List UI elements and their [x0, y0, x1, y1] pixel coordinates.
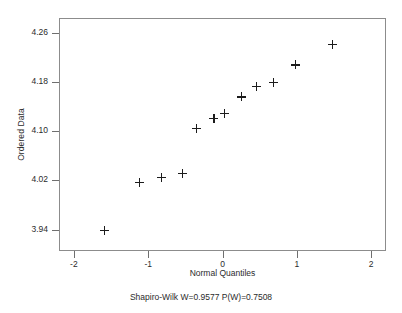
y-tick-label: 3.94 — [8, 225, 48, 234]
shapiro-wilk-caption: Shapiro-Wilk W=0.9577 P(W)=0.7508 — [0, 292, 402, 302]
data-point — [209, 114, 218, 123]
data-point — [328, 40, 337, 49]
data-point — [192, 124, 201, 133]
y-tick-mark — [52, 131, 59, 132]
x-tick-mark — [371, 251, 372, 258]
x-tick-mark — [223, 251, 224, 258]
data-point — [135, 178, 144, 187]
x-tick-mark — [74, 251, 75, 258]
qq-plot-figure: Ordered Data 3.944.024.104.184.26 -2-101… — [0, 0, 402, 313]
plot-area — [59, 18, 386, 251]
x-tick-mark — [148, 251, 149, 258]
y-tick-mark — [52, 33, 59, 34]
data-point — [269, 78, 278, 87]
y-tick-label: 4.10 — [8, 126, 48, 135]
x-axis-title: Normal Quantiles — [59, 268, 386, 278]
y-tick-mark — [52, 180, 59, 181]
y-tick-mark — [52, 82, 59, 83]
data-point — [252, 82, 261, 91]
data-point — [178, 169, 187, 178]
data-point — [291, 60, 300, 69]
data-point — [157, 173, 166, 182]
data-point — [220, 109, 229, 118]
data-point — [100, 226, 109, 235]
y-tick-mark — [52, 230, 59, 231]
x-tick-mark — [297, 251, 298, 258]
y-tick-label: 4.02 — [8, 175, 48, 184]
data-point — [237, 92, 246, 101]
y-tick-label: 4.18 — [8, 77, 48, 86]
y-tick-label: 4.26 — [8, 28, 48, 37]
